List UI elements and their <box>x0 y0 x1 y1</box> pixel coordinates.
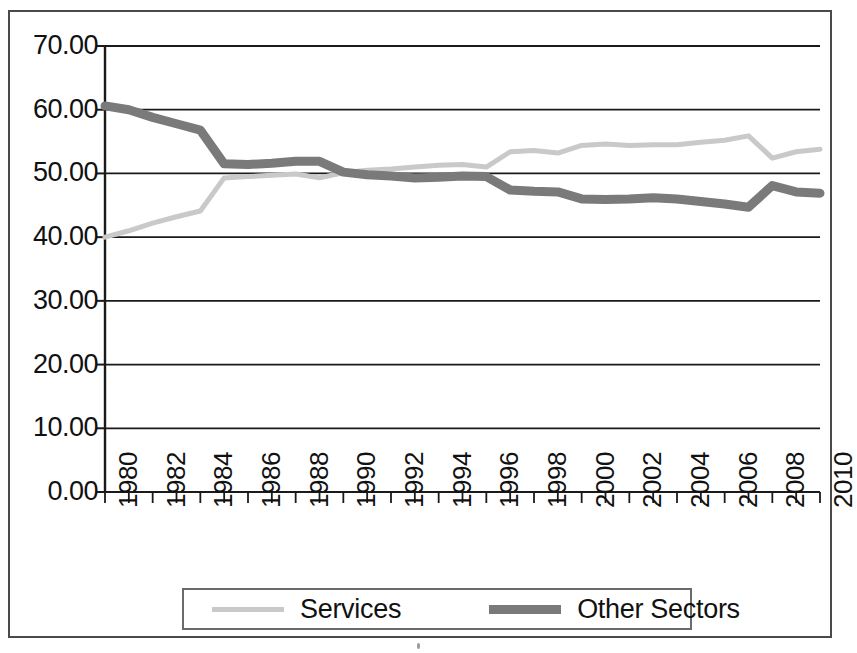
x-tick-label: 1982 <box>163 452 189 508</box>
x-tick-label: 1994 <box>449 452 475 508</box>
x-tick-label: 1998 <box>544 452 570 508</box>
x-tick-label: 2010 <box>830 452 856 508</box>
chart-legend: Services Other Sectors <box>182 588 692 630</box>
x-tick-label: 1990 <box>353 452 379 508</box>
x-tick-label: 2000 <box>592 452 618 508</box>
x-axis-tick-labels: 1980198219841986198819901992199419961998… <box>10 12 834 640</box>
x-tick-label: 1992 <box>401 452 427 508</box>
legend-entry-other-sectors: Other Sectors <box>489 590 740 628</box>
x-tick-label: 2008 <box>782 452 808 508</box>
chart-figure-frame: 0.0010.0020.0030.0040.0050.0060.0070.00 … <box>8 10 832 638</box>
x-tick-label: 2004 <box>687 452 713 508</box>
x-tick-label: 2006 <box>735 452 761 508</box>
x-tick-label: 1986 <box>258 452 284 508</box>
x-tick-label: 1996 <box>496 452 522 508</box>
x-tick-label: 2002 <box>639 452 665 508</box>
light-line-swatch <box>212 607 284 612</box>
legend-label-services: Services <box>300 596 401 623</box>
page-speck <box>417 643 420 649</box>
x-tick-label: 1984 <box>210 452 236 508</box>
x-tick-label: 1980 <box>115 452 141 508</box>
dark-line-swatch <box>489 605 561 614</box>
legend-label-other-sectors: Other Sectors <box>577 596 740 623</box>
legend-entry-services: Services <box>212 590 401 628</box>
x-tick-label: 1988 <box>306 452 332 508</box>
